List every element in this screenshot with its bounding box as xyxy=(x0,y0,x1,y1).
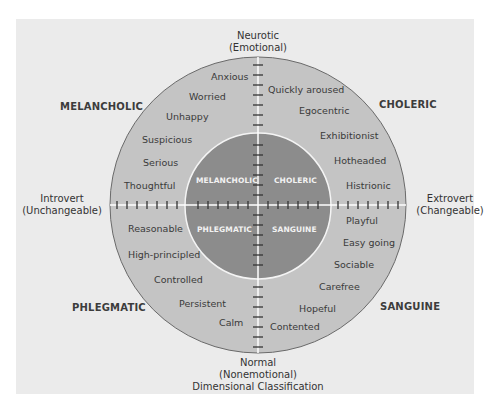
inner-label-melancholic: MELANCHOLIC xyxy=(196,176,258,185)
inner-label-choleric: CHOLERIC xyxy=(274,176,317,185)
trait-egocentric: Egocentric xyxy=(299,105,349,116)
axis-bottom-line2: (Nonemotional) xyxy=(180,369,336,381)
axis-label-bottom: Normal (Nonemotional) Dimensional Classi… xyxy=(180,357,336,393)
trait-reasonable: Reasonable xyxy=(128,223,183,234)
axis-bottom-line1: Normal xyxy=(180,357,336,369)
axis-right-line2: (Changeable) xyxy=(410,205,490,217)
axis-label-right: Extrovert (Changeable) xyxy=(410,193,490,217)
corner-label-sanguine: SANGUINE xyxy=(380,301,440,312)
trait-thoughtful: Thoughtful xyxy=(124,180,175,191)
trait-high-principled: High-principled xyxy=(128,249,200,260)
trait-suspicious: Suspicious xyxy=(142,134,192,145)
trait-worried: Worried xyxy=(189,91,226,102)
trait-serious: Serious xyxy=(143,157,178,168)
trait-calm: Calm xyxy=(219,317,243,328)
inner-label-phlegmatic: PHLEGMATIC xyxy=(197,225,252,234)
axis-bottom-line3: Dimensional Classification xyxy=(180,381,336,393)
trait-sociable: Sociable xyxy=(334,259,374,270)
inner-label-sanguine: SANGUINE xyxy=(272,225,317,234)
trait-easy-going: Easy going xyxy=(343,237,395,248)
trait-anxious: Anxious xyxy=(211,71,249,82)
trait-hopeful: Hopeful xyxy=(299,303,336,314)
trait-playful: Playful xyxy=(346,215,378,226)
axis-label-top: Neurotic (Emotional) xyxy=(220,30,296,54)
axis-top-line1: Neurotic xyxy=(220,30,296,42)
trait-contented: Contented xyxy=(270,321,320,332)
axis-top-line2: (Emotional) xyxy=(220,42,296,54)
axis-left-line1: Introvert xyxy=(22,193,102,205)
trait-quickly-aroused: Quickly aroused xyxy=(268,84,344,95)
axis-left-line2: (Unchangeable) xyxy=(22,205,102,217)
trait-carefree: Carefree xyxy=(319,281,360,292)
corner-label-phlegmatic: PHLEGMATIC xyxy=(72,302,146,313)
axis-right-line1: Extrovert xyxy=(410,193,490,205)
trait-exhibitionist: Exhibitionist xyxy=(320,130,378,141)
trait-hotheaded: Hotheaded xyxy=(334,155,386,166)
trait-persistent: Persistent xyxy=(179,298,226,309)
axis-label-left: Introvert (Unchangeable) xyxy=(22,193,102,217)
corner-label-melancholic: MELANCHOLIC xyxy=(60,101,143,112)
trait-histrionic: Histrionic xyxy=(346,180,391,191)
trait-controlled: Controlled xyxy=(154,274,203,285)
corner-label-choleric: CHOLERIC xyxy=(379,99,437,110)
trait-unhappy: Unhappy xyxy=(166,111,209,122)
